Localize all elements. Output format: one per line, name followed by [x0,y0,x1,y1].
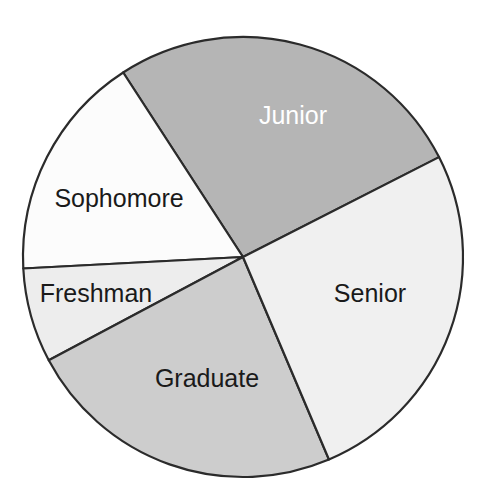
pie-chart-svg: JuniorSophomoreFreshmanGraduateSenior [0,0,477,499]
pie-chart-container: JuniorSophomoreFreshmanGraduateSenior [0,0,477,499]
pie-slice-label-freshman: Freshman [40,279,153,307]
pie-slice-label-graduate: Graduate [155,364,259,392]
pie-slice-label-junior: Junior [259,101,327,129]
pie-slice-label-sophomore: Sophomore [54,184,183,212]
pie-slice-label-senior: Senior [334,279,406,307]
pie-slices-group [23,37,463,477]
